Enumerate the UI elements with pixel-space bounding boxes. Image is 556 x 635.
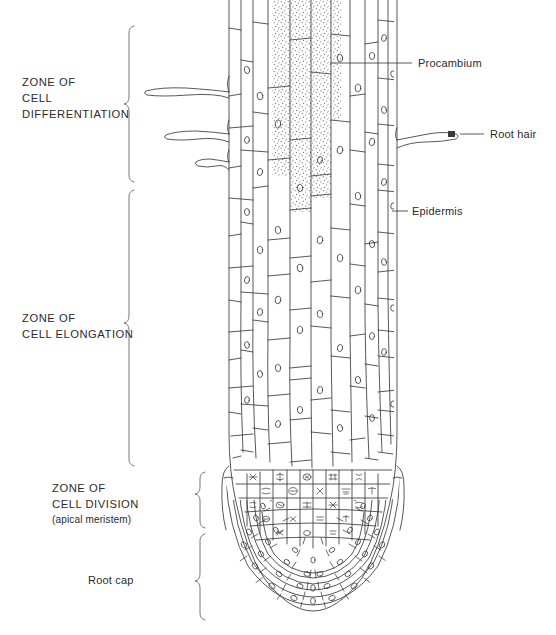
root-hair-label: Root hair [490,128,537,140]
procambium-label: Procambium [418,57,482,69]
zone-brackets [124,26,205,620]
root-cap-label: Root cap [88,574,134,586]
zone-elongation-line1: ZONE OF [22,312,76,324]
bracket-differentiation [124,26,134,182]
zone-differentiation-line3: DIFFERENTIATION [22,108,129,120]
zone-division-line1: ZONE OF [52,482,106,494]
zone-differentiation-line1: ZONE OF [22,76,76,88]
zone-label-elongation: ZONE OF CELL ELONGATION [22,312,133,340]
zone-label-division: ZONE OF CELL DIVISION (apical meristem) [52,482,139,525]
zone-division-line2: CELL DIVISION [52,498,139,510]
zone-differentiation-line2: CELL [22,92,52,104]
mitotic-figures [249,473,376,536]
zone-label-root-cap: Root cap [88,574,134,586]
zone-division-sub: (apical meristem) [52,514,131,525]
root-hair-right [396,128,459,148]
meristem-region [234,470,392,548]
bracket-root-cap [195,534,205,620]
root-diagram-canvas: ZONE OF CELL DIFFERENTIATION ZONE OF CEL… [0,0,556,635]
zone-label-differentiation: ZONE OF CELL DIFFERENTIATION [22,76,129,120]
callout-leaders [330,63,484,211]
root-diagram-svg: ZONE OF CELL DIFFERENTIATION ZONE OF CEL… [0,0,556,635]
zone-elongation-line2: CELL ELONGATION [22,328,133,340]
bracket-division [195,472,205,528]
epidermis-label: Epidermis [412,205,463,217]
root-hair-group [145,76,229,170]
